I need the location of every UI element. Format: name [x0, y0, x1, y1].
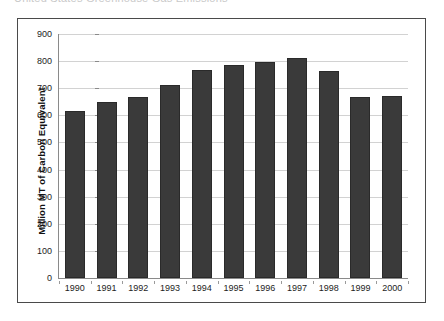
category-tick-0 — [59, 281, 60, 284]
y-tick-label-500: 500 — [37, 137, 52, 147]
y-tick-label-800: 800 — [37, 56, 52, 66]
bar-slot-1990 — [59, 34, 91, 278]
category-label-1994: 1994 — [186, 281, 218, 297]
category-label-1990: 1990 — [59, 281, 91, 297]
bar-slot-1992 — [122, 34, 154, 278]
bar-1999[interactable] — [350, 97, 370, 278]
category-label-1991: 1991 — [91, 281, 123, 297]
bar-slot-1994 — [186, 34, 218, 278]
bar-slot-1993 — [154, 34, 186, 278]
category-tick-3 — [154, 281, 155, 284]
gridline-0 — [59, 278, 408, 279]
y-tick-label-0: 0 — [47, 273, 52, 283]
clipped-text-above-label: United States Greenhouse Gas Emissions — [14, 0, 228, 4]
category-label-1993: 1993 — [154, 281, 186, 297]
category-tick-4 — [186, 281, 187, 284]
category-tick-2 — [122, 281, 123, 284]
category-tick-8 — [313, 281, 314, 284]
chart-figure-frame: Million MT of Carbon Equivalent 01002003… — [17, 18, 426, 303]
bar-slot-1995 — [218, 34, 250, 278]
category-tick-6 — [249, 281, 250, 284]
clipped-text-above: United States Greenhouse Gas Emissions — [0, 0, 444, 14]
category-axis: 1990199119921993199419951996199719981999… — [59, 281, 408, 297]
bar-1993[interactable] — [160, 85, 180, 278]
category-tick-1 — [91, 281, 92, 284]
category-label-1992: 1992 — [122, 281, 154, 297]
category-tick-10 — [376, 281, 377, 284]
category-tick-9 — [345, 281, 346, 284]
bar-slot-1996 — [249, 34, 281, 278]
bar-slot-1999 — [345, 34, 377, 278]
bar-slot-1991 — [91, 34, 123, 278]
category-label-1996: 1996 — [249, 281, 281, 297]
bar-1992[interactable] — [128, 97, 148, 278]
category-tick-5 — [218, 281, 219, 284]
category-label-1999: 1999 — [345, 281, 377, 297]
plot-area: 0100200300400500600700800900 — [59, 34, 408, 278]
y-tick-label-700: 700 — [37, 83, 52, 93]
category-label-1997: 1997 — [281, 281, 313, 297]
bar-1998[interactable] — [319, 71, 339, 278]
y-axis-title: Million MT of Carbon Equivalent — [36, 87, 47, 235]
bar-1994[interactable] — [192, 70, 212, 278]
y-tick-label-300: 300 — [37, 192, 52, 202]
bar-slot-1998 — [313, 34, 345, 278]
category-tick-7 — [281, 281, 282, 284]
category-label-1995: 1995 — [218, 281, 250, 297]
bars-layer — [59, 34, 408, 278]
category-label-1998: 1998 — [313, 281, 345, 297]
bar-1991[interactable] — [97, 102, 117, 278]
bar-1990[interactable] — [65, 111, 85, 278]
tick-mark-0 — [95, 278, 99, 279]
bar-1996[interactable] — [255, 62, 275, 278]
y-tick-label-100: 100 — [37, 246, 52, 256]
bar-slot-1997 — [281, 34, 313, 278]
bar-slot-2000 — [376, 34, 408, 278]
category-tick-11 — [408, 281, 409, 284]
y-tick-label-200: 200 — [37, 219, 52, 229]
y-tick-label-600: 600 — [37, 110, 52, 120]
bar-1997[interactable] — [287, 58, 307, 278]
y-tick-label-900: 900 — [37, 29, 52, 39]
category-label-2000: 2000 — [376, 281, 408, 297]
y-tick-label-400: 400 — [37, 165, 52, 175]
bar-1995[interactable] — [224, 65, 244, 278]
bar-2000[interactable] — [382, 96, 402, 278]
